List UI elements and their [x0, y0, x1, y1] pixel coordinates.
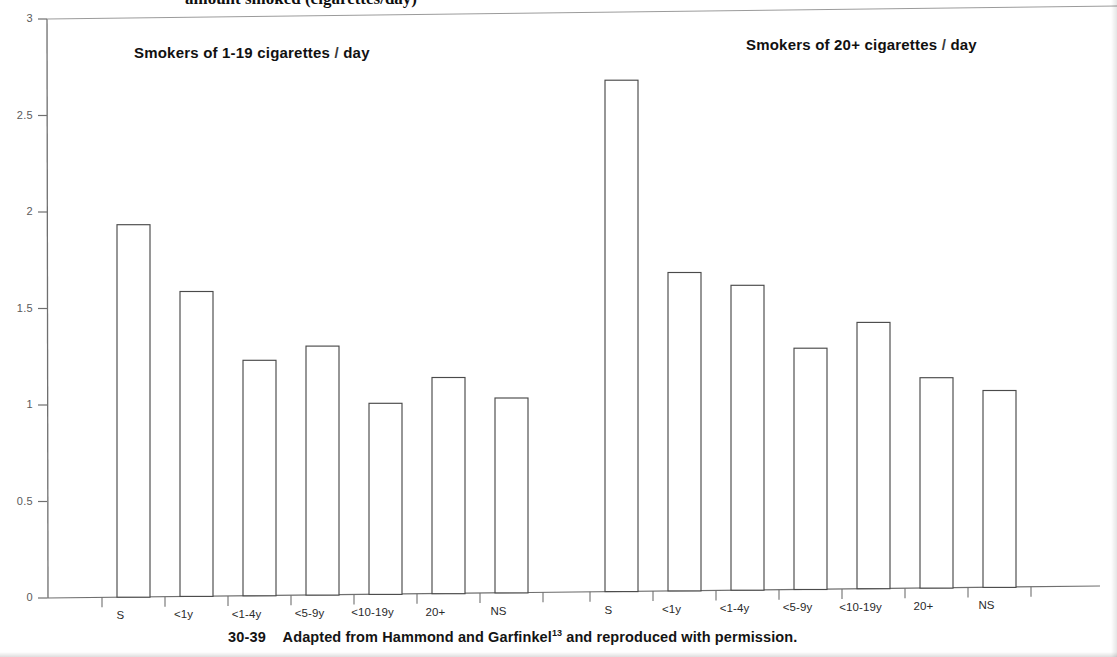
- y-axis-tick-label: 0: [0, 591, 33, 603]
- x-axis-tick-label: <1-4y: [703, 602, 766, 614]
- bar: [369, 403, 402, 594]
- x-axis-tick-label: <1y: [152, 608, 215, 620]
- plot-area: [0, 0, 1117, 657]
- figure-caption-panel-id: 30-39: [228, 629, 266, 645]
- x-axis-tick-label: NS: [955, 599, 1018, 611]
- bar: [495, 398, 528, 593]
- bar: [983, 391, 1016, 588]
- bar: [920, 378, 953, 588]
- figure-caption-main-text: Adapted from Hammond and Garfinkel: [283, 629, 552, 645]
- bar-rect: [432, 378, 465, 594]
- figure-caption-reference-marker: 13: [552, 628, 562, 638]
- group-annotation-label: Smokers of 20+ cigarettes / day: [746, 36, 977, 53]
- y-axis-tick-label: 2.5: [0, 109, 33, 121]
- group-annotation-text-before: Smokers of 20+ cigarettes: [746, 36, 942, 53]
- figure-caption-tail-text: and reproduced with permission.: [562, 629, 797, 645]
- group-annotation-text-after: day: [339, 44, 370, 61]
- figure-caption: 30-39 Adapted from Hammond and Garfinkel…: [228, 628, 797, 645]
- y-axis-tick-label: 1: [0, 398, 33, 410]
- page-rule-top: [47, 6, 1117, 19]
- figure-bar-chart: amount smoked (cigarettes/day) 00.511.52…: [0, 0, 1117, 657]
- bar: [668, 273, 701, 591]
- x-axis-tick-label: NS: [467, 605, 530, 617]
- x-axis-tick-label: <1-4y: [215, 608, 278, 620]
- bar-rect: [731, 285, 764, 590]
- y-axis-tick-label: 3: [0, 12, 33, 24]
- bar: [794, 348, 827, 589]
- x-axis-tick-label: 20+: [404, 606, 467, 618]
- bar-rect: [117, 225, 150, 598]
- bar-rect: [243, 360, 276, 596]
- bar-rect: [306, 346, 339, 595]
- bar-rect: [369, 403, 402, 594]
- bar-rect: [605, 80, 638, 591]
- page-edge-shadow-bottom: [0, 652, 1117, 657]
- bar-rect: [668, 273, 701, 591]
- bar-rect: [920, 378, 953, 588]
- y-axis-tick-label: 2: [0, 205, 33, 217]
- bar: [117, 225, 150, 598]
- x-axis-tick-label: <10-19y: [341, 606, 404, 618]
- bar-rect: [794, 348, 827, 589]
- group-annotation-text-before: Smokers of 1-19 cigarettes: [134, 44, 335, 61]
- x-axis-tick-label: 20+: [892, 600, 955, 612]
- bar: [306, 346, 339, 595]
- x-axis-tick-label: <10-19y: [829, 601, 892, 613]
- bar: [432, 378, 465, 594]
- figure-caption-gap: [266, 629, 283, 645]
- bar: [180, 292, 213, 597]
- bar: [605, 80, 638, 591]
- bar-rect: [180, 292, 213, 597]
- page-edge-shadow-right: [1111, 0, 1117, 657]
- x-axis-tick-label: <5-9y: [278, 607, 341, 619]
- bar: [243, 360, 276, 596]
- y-axis-line: [47, 19, 48, 598]
- bar: [731, 285, 764, 590]
- x-axis-tick-label: S: [577, 604, 640, 616]
- bar-rect: [495, 398, 528, 593]
- x-axis-tick-label: <5-9y: [766, 601, 829, 613]
- group-annotation-label: Smokers of 1-19 cigarettes / day: [134, 44, 370, 61]
- bar-rect: [857, 322, 890, 588]
- group-annotation-text-after: day: [946, 36, 977, 53]
- y-axis-tick-label: 1.5: [0, 302, 33, 314]
- x-axis-tick-label: <1y: [640, 603, 703, 615]
- bar-rect: [983, 391, 1016, 588]
- bar: [857, 322, 890, 588]
- y-axis-tick-label: 0.5: [0, 495, 33, 507]
- x-axis-tick-label: S: [89, 609, 152, 621]
